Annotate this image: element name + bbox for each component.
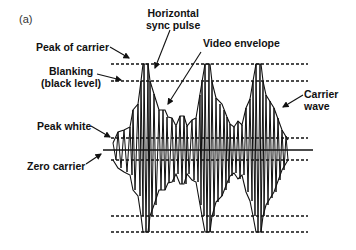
waveform-diagram xyxy=(0,0,356,250)
arrow-blanking xyxy=(97,74,121,80)
arrow-zero-carrier xyxy=(86,154,101,164)
arrow-sync-pulse xyxy=(155,30,170,68)
arrow-peak-white xyxy=(91,126,110,137)
arrow-peak-of-carrier xyxy=(110,47,129,58)
arrow-carrier-wave xyxy=(283,95,303,107)
arrow-video-envelope xyxy=(168,52,201,104)
